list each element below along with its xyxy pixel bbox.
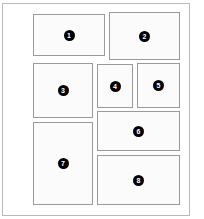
cell-number-badge-2: 2 [139,31,150,42]
layout-cell-4[interactable]: 4 [97,64,133,108]
layout-cell-7[interactable]: 7 [33,122,93,205]
cell-number-badge-6: 6 [133,126,144,137]
cell-number-badge-4: 4 [110,81,121,92]
cell-number-badge-8: 8 [133,175,144,186]
layout-cell-1[interactable]: 1 [33,14,105,56]
layout-cell-5[interactable]: 5 [137,63,180,108]
layout-cell-8[interactable]: 8 [97,155,180,205]
layout-diagram: 1 2 3 4 5 6 7 8 [0,0,204,219]
layout-cell-3[interactable]: 3 [33,63,93,118]
cell-number-badge-3: 3 [58,85,69,96]
layout-cell-6[interactable]: 6 [97,111,180,151]
cell-number-badge-7: 7 [58,158,69,169]
layout-cell-2[interactable]: 2 [109,12,180,60]
cell-number-badge-5: 5 [153,80,164,91]
cell-number-badge-1: 1 [64,30,75,41]
